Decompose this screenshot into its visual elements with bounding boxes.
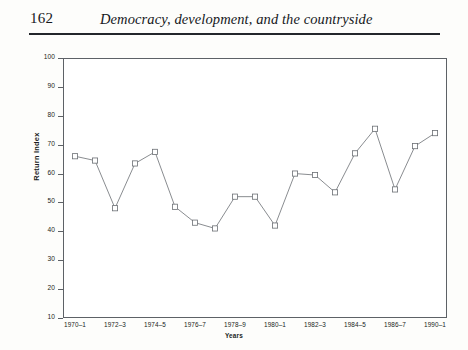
data-point-marker	[392, 187, 397, 192]
data-point-marker	[172, 204, 177, 209]
data-point-marker	[92, 158, 97, 163]
data-series-line	[0, 44, 468, 350]
data-point-marker	[432, 131, 437, 136]
data-point-marker	[132, 161, 137, 166]
page-number: 162	[30, 10, 53, 27]
data-point-marker	[372, 126, 377, 131]
data-point-marker	[152, 149, 157, 154]
series-line	[75, 129, 435, 229]
data-point-marker	[112, 206, 117, 211]
x-axis-title: Years	[0, 332, 468, 339]
data-point-marker	[412, 144, 417, 149]
data-point-marker	[72, 154, 77, 159]
book-page: 162 Democracy, development, and the coun…	[0, 0, 468, 350]
data-point-marker	[232, 194, 237, 199]
header-rule	[29, 33, 440, 35]
data-point-marker	[252, 194, 257, 199]
figure-line-chart: Return Index 100908070605040302010 1970–…	[0, 44, 468, 350]
data-point-marker	[272, 223, 277, 228]
data-point-marker	[292, 171, 297, 176]
running-header: 162 Democracy, development, and the coun…	[0, 0, 468, 44]
data-point-marker	[192, 220, 197, 225]
running-head-title: Democracy, development, and the countrys…	[100, 11, 372, 28]
data-point-marker	[352, 151, 357, 156]
data-point-marker	[312, 172, 317, 177]
data-point-marker	[212, 226, 217, 231]
data-point-marker	[332, 190, 337, 195]
